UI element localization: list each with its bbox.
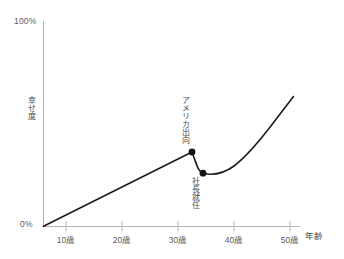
curve-segment-recovery-rise	[203, 97, 294, 175]
x-tick-label-30: 30歳	[169, 233, 187, 245]
x-tick-label-10: 10歳	[57, 233, 75, 245]
marker-president-appointment	[200, 170, 207, 177]
curve-segment-drop-after-assignment	[192, 152, 203, 173]
y-axis-min-label: 0%	[20, 220, 33, 229]
annotation-america-assignment: アメリカ出向	[180, 96, 188, 144]
x-tick-label-50: 50歳	[281, 233, 299, 245]
x-tick-label-20: 20歳	[113, 233, 131, 245]
chart-canvas	[0, 0, 344, 259]
y-axis-max-label: 100%	[14, 17, 37, 26]
curve-segment-rising-youth	[44, 152, 193, 226]
annotation-president-appointment: 社長就任	[190, 177, 198, 209]
marker-america-assignment	[189, 149, 196, 156]
happiness-vs-age-chart: 100% 0% 幸せ度 10歳 20歳 30歳 40歳 50歳 年齢 アメリカ出…	[0, 0, 344, 259]
x-tick-label-40: 40歳	[225, 233, 243, 245]
y-axis-title: 幸せ度	[26, 96, 34, 120]
x-axis-title: 年齢	[305, 232, 323, 241]
